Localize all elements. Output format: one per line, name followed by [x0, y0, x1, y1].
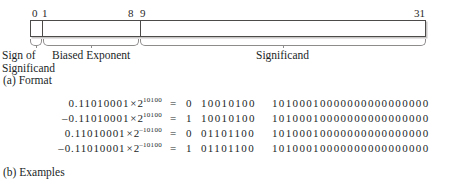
exponent-field-brace: [43, 39, 139, 46]
example-row: –0.11010001×210100 = 1 10010100 10100010…: [0, 111, 459, 126]
example-exponent: 10100: [143, 96, 162, 104]
example-exponent: 10100: [143, 111, 162, 119]
equals-sign: =: [170, 126, 176, 141]
example-exponent: –10100: [139, 126, 162, 134]
bit-index-8: 8: [128, 6, 134, 20]
multiplication-sign: ×: [129, 112, 137, 124]
bit-index-0: 0: [32, 6, 38, 20]
sign-field-brace: [30, 39, 42, 46]
example-mantissa: 0.11010001: [68, 97, 129, 109]
examples-caption: (b) Examples: [3, 165, 65, 179]
bit-index-1: 1: [42, 6, 48, 20]
example-mantissa: 0.11010001: [68, 112, 129, 124]
encoded-significand-bits: 10100010000000000000000: [272, 96, 430, 111]
encoded-exponent-bits: 10010100: [201, 96, 256, 111]
example-row: –0.11010001×2–10100 = 1 01101100 1010001…: [0, 141, 459, 156]
sign-field-label-line1: Sign of: [2, 49, 36, 61]
format-figure: 0 1 8 9 31 Sign of Significand Biased Ex…: [0, 0, 459, 88]
encoded-exponent-bits: 01101100: [201, 141, 255, 156]
example-mantissa: 0.11010001: [65, 142, 126, 154]
example-value-expression: 0.11010001×210100: [30, 96, 162, 111]
example-value-expression: –0.11010001×210100: [30, 111, 162, 126]
exponent-field-divider: [140, 21, 141, 36]
example-mantissa: 0.11010001: [65, 127, 126, 139]
equals-sign: =: [170, 111, 176, 126]
encoded-sign-bit: 0: [186, 126, 192, 141]
equals-sign: =: [170, 141, 176, 156]
example-value-expression: –0.11010001×2–10100: [30, 141, 162, 156]
encoded-significand-bits: 10100010000000000000000: [272, 111, 430, 126]
encoded-exponent-bits: 10010100: [201, 111, 256, 126]
encoded-significand-bits: 10100010000000000000000: [272, 141, 430, 156]
word-format-box: [30, 20, 426, 37]
multiplication-sign: ×: [125, 127, 133, 139]
encoded-sign-bit: 1: [186, 141, 192, 156]
encoded-sign-bit: 0: [186, 96, 192, 111]
example-value-expression: 0.11010001×2–10100: [30, 126, 162, 141]
example-row: 0.11010001×210100 = 0 10010100 101000100…: [0, 96, 459, 111]
multiplication-sign: ×: [129, 97, 137, 109]
exponent-field-label: Biased Exponent: [52, 49, 130, 62]
encoded-significand-bits: 10100010000000000000000: [272, 126, 430, 141]
bit-index-31: 31: [414, 6, 425, 20]
equals-sign: =: [170, 96, 176, 111]
example-exponent: –10100: [139, 141, 162, 149]
example-row: 0.11010001×2–10100 = 0 01101100 10100010…: [0, 126, 459, 141]
sign-field-divider: [42, 21, 43, 36]
encoded-sign-bit: 1: [186, 111, 192, 126]
encoded-exponent-bits: 01101100: [201, 126, 255, 141]
sign-field-label: Sign of Significand: [2, 49, 55, 75]
multiplication-sign: ×: [125, 142, 133, 154]
significand-field-brace: [140, 39, 426, 46]
significand-field-label: Significand: [256, 49, 309, 62]
bit-index-9: 9: [140, 6, 146, 20]
examples-figure: 0.11010001×210100 = 0 10010100 101000100…: [0, 94, 459, 160]
format-caption: (a) Format: [3, 73, 52, 87]
